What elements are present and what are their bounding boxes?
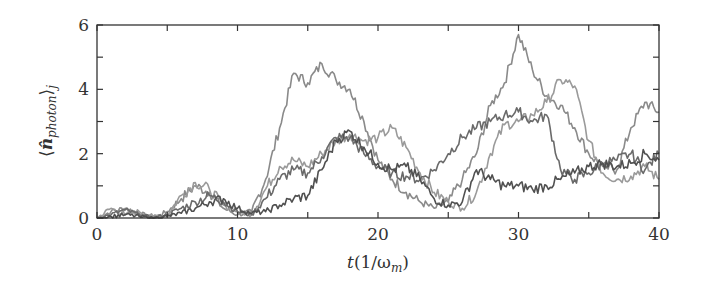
y-tick-label: 6 [78,15,89,35]
x-tick-label: 0 [92,224,103,244]
y-tick-label: 4 [78,79,89,99]
series-layer [97,35,659,218]
ticks-layer [97,25,659,218]
x-tick-label: 10 [227,224,249,244]
y-tick-label: 2 [78,144,89,164]
series-line-trajectory-1 [97,35,659,218]
series-line-trajectory-2 [97,80,659,218]
y-axis-label: ⟨n̂photon⟩j [36,85,59,157]
chart: 0102030400246 t(1/ωm) ⟨n̂photon⟩j [0,0,703,285]
x-tick-label: 40 [648,224,670,244]
x-axis-label: t(1/ωm) [347,252,409,275]
y-tick-label: 0 [78,208,89,228]
x-tick-label: 20 [367,224,389,244]
tick-labels: 0102030400246 [78,15,670,244]
series-line-trajectory-4 [97,130,659,218]
plot-frame [97,25,659,218]
x-tick-label: 30 [508,224,530,244]
